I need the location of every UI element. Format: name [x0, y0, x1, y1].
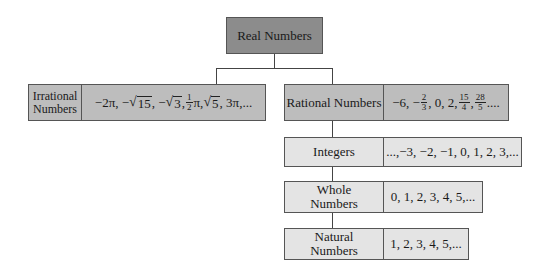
- fraction: 23: [421, 93, 428, 112]
- integers-label: Integers: [285, 138, 383, 166]
- fraction: 12: [186, 93, 193, 112]
- natural-numbers-label: Natural Numbers: [285, 229, 383, 259]
- rational-numbers-node: Rational Numbers −6, − 23 , 0, 2, 154 , …: [284, 84, 509, 121]
- connector-horizontal: [216, 68, 333, 69]
- natural-numbers-node: Natural Numbers 1, 2, 3, 4, 5,...: [284, 228, 469, 260]
- real-numbers-node: Real Numbers: [226, 17, 323, 54]
- whole-numbers-examples: 0, 1, 2, 3, 4, 5,...: [383, 182, 482, 212]
- irrational-numbers-node: Irrational Numbers −2π, − √15 , − √3 , 1…: [28, 84, 266, 121]
- integers-examples: ...,−3, −2, −1, 0, 1, 2, 3,...: [383, 138, 521, 166]
- fraction: 285: [475, 93, 486, 112]
- connector-integers-whole: [332, 166, 333, 181]
- connector-irrational: [216, 68, 217, 84]
- sqrt-symbol: √15: [129, 95, 152, 111]
- rational-numbers-examples: −6, − 23 , 0, 2, 154 , 285 ....: [383, 85, 508, 120]
- natural-numbers-examples: 1, 2, 3, 4, 5,...: [383, 229, 468, 259]
- connector-rational: [332, 68, 333, 84]
- rational-numbers-label: Rational Numbers: [285, 85, 383, 120]
- connector-root-down: [274, 53, 275, 68]
- real-numbers-label: Real Numbers: [227, 18, 322, 53]
- connector-whole-natural: [332, 212, 333, 228]
- sqrt-symbol: √3: [166, 95, 182, 111]
- sqrt-symbol: √5: [203, 95, 219, 111]
- whole-numbers-node: Whole Numbers 0, 1, 2, 3, 4, 5,...: [284, 181, 483, 213]
- irrational-numbers-label: Irrational Numbers: [29, 85, 81, 120]
- irrational-numbers-examples: −2π, − √15 , − √3 , 12 π, √5 , 3π,...: [81, 85, 265, 120]
- whole-numbers-label: Whole Numbers: [285, 182, 383, 212]
- fraction: 154: [459, 93, 470, 112]
- integers-node: Integers ...,−3, −2, −1, 0, 1, 2, 3,...: [284, 137, 522, 167]
- connector-rational-integers: [332, 120, 333, 137]
